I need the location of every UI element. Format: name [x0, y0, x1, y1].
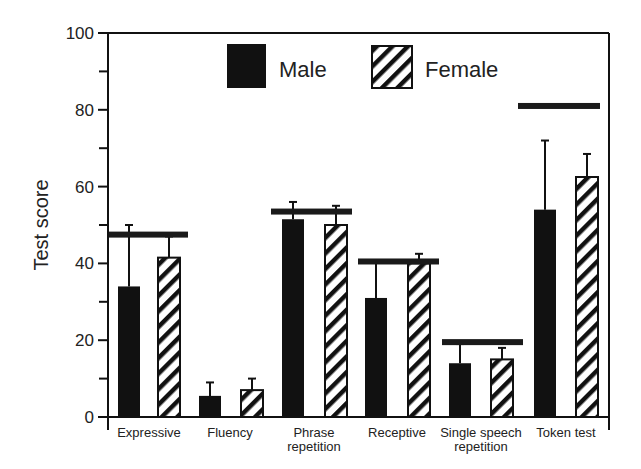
bar-group — [442, 339, 523, 417]
bar-male — [534, 210, 556, 417]
bar-group — [109, 225, 188, 417]
reference-line — [518, 103, 600, 109]
bar-female — [158, 258, 180, 417]
category-label: Fluency — [207, 425, 253, 440]
y-tick-label: 0 — [85, 408, 94, 427]
y-tick-label: 20 — [75, 331, 94, 350]
category-label: Receptive — [368, 425, 426, 440]
legend-swatch-male — [227, 44, 266, 88]
bar-chart: 020406080100 Test score Male Female Expr… — [0, 0, 641, 469]
reference-line — [271, 209, 352, 215]
y-tick-label: 40 — [75, 254, 94, 273]
legend: Male Female — [227, 44, 498, 88]
bar-female — [408, 263, 430, 417]
y-tick-label: 80 — [75, 101, 94, 120]
bar-groups — [109, 103, 600, 417]
reference-line — [358, 258, 439, 264]
legend-label-male: Male — [279, 57, 327, 82]
bar-female — [325, 225, 347, 417]
y-axis-ticks — [98, 33, 108, 417]
bar-female — [576, 177, 598, 417]
bar-group — [358, 254, 439, 417]
category-label: repetition — [454, 439, 507, 454]
y-axis-tick-labels: 020406080100 — [66, 24, 94, 427]
bar-male — [449, 363, 471, 417]
category-label: Expressive — [117, 425, 181, 440]
category-label: Token test — [536, 425, 596, 440]
y-axis-title: Test score — [30, 179, 52, 270]
category-label: Phrase — [293, 425, 334, 440]
bar-group — [518, 103, 600, 417]
y-tick-label: 100 — [66, 24, 94, 43]
bar-male — [282, 219, 304, 417]
y-tick-label: 60 — [75, 178, 94, 197]
x-axis-category-labels: ExpressiveFluencyPhraserepetitionRecepti… — [117, 425, 596, 454]
bar-female — [241, 390, 263, 417]
reference-line — [442, 339, 523, 345]
legend-swatch-female — [372, 46, 412, 88]
reference-line — [109, 232, 188, 238]
bar-female — [491, 359, 513, 417]
bar-male — [199, 396, 221, 417]
bar-group — [199, 379, 263, 417]
category-label: repetition — [287, 439, 340, 454]
category-label: Single speech — [440, 425, 522, 440]
legend-label-female: Female — [425, 57, 498, 82]
bar-male — [365, 298, 387, 417]
bar-group — [271, 202, 352, 417]
bar-male — [118, 286, 140, 417]
